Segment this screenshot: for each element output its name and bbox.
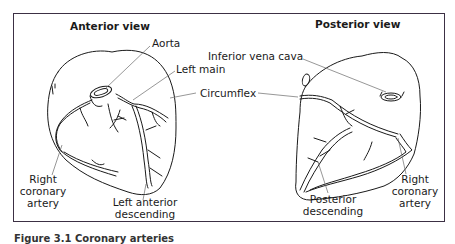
- label-left-main: Left main: [176, 63, 225, 75]
- label-right-coronary-anterior: Right coronary artery: [18, 173, 68, 209]
- label-circumflex: Circumflex: [200, 87, 256, 99]
- anterior-view-title: Anterior view: [70, 20, 150, 32]
- label-aorta: Aorta: [152, 37, 180, 49]
- label-inferior-vena-cava: Inferior vena cava: [208, 50, 303, 62]
- figure-caption: Figure 3.1 Coronary arteries: [14, 233, 174, 244]
- label-left-anterior-descending: Left anterior descending: [105, 196, 185, 220]
- label-right-coronary-posterior: Right coronary artery: [390, 173, 440, 209]
- label-posterior-descending: Posterior descending: [300, 193, 366, 217]
- posterior-view-title: Posterior view: [315, 18, 400, 30]
